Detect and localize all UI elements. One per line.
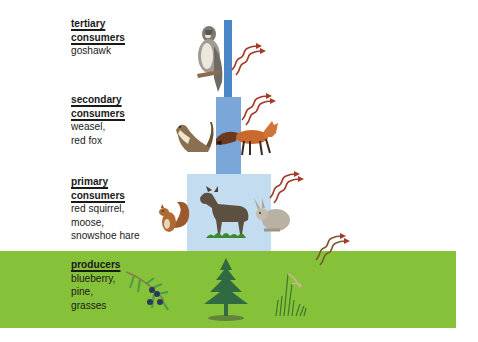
level-title: primary: [71, 175, 140, 189]
level-organisms: goshawk: [71, 44, 125, 58]
level-organisms: snowshoe hare: [71, 229, 140, 243]
level-title: consumers: [71, 31, 125, 45]
primary-label: primary consumers red squirrel, moose, s…: [71, 175, 140, 243]
red-squirrel-icon: [155, 198, 191, 236]
heat-loss-arrow-icon: [268, 170, 308, 204]
goshawk-icon: [192, 22, 232, 94]
level-organisms: red squirrel,: [71, 202, 140, 216]
level-organisms: grasses: [71, 299, 121, 313]
tertiary-label: tertiary consumers goshawk: [71, 17, 125, 58]
level-title: tertiary: [71, 17, 125, 31]
level-title: secondary: [71, 93, 125, 107]
level-organisms: pine,: [71, 285, 121, 299]
pine-tree-icon: [198, 256, 254, 322]
level-title: consumers: [71, 107, 125, 121]
level-organisms: moose,: [71, 216, 140, 230]
level-organisms: red fox: [71, 134, 125, 148]
moose-icon: [196, 184, 256, 242]
blueberry-branch-icon: [124, 270, 180, 316]
secondary-label: secondary consumers weasel, red fox: [71, 93, 125, 147]
level-title: producers: [71, 258, 121, 272]
heat-loss-arrow-icon: [314, 232, 354, 266]
level-organisms: blueberry,: [71, 272, 121, 286]
level-title: consumers: [71, 189, 140, 203]
heat-loss-arrow-icon: [240, 92, 280, 126]
grasses-icon: [270, 270, 310, 318]
heat-loss-arrow-icon: [230, 42, 270, 76]
level-organisms: weasel,: [71, 120, 125, 134]
weasel-icon: [174, 118, 216, 158]
producers-label: producers blueberry, pine, grasses: [71, 258, 121, 312]
